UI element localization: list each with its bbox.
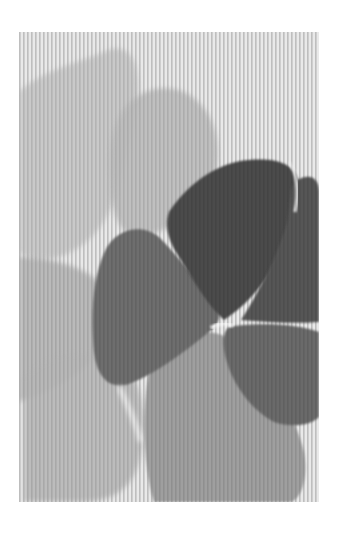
painting xyxy=(19,32,319,502)
paper-texture-overlay xyxy=(19,32,319,502)
flower-petals-illustration xyxy=(19,32,319,502)
